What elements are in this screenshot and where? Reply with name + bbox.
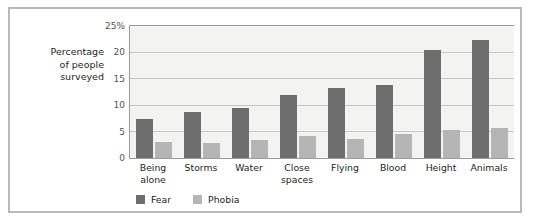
bar-group bbox=[472, 26, 508, 158]
bar-fear bbox=[328, 88, 345, 158]
y-tick-label: 20 bbox=[114, 47, 125, 57]
bar-group bbox=[136, 26, 172, 158]
bar-phobia bbox=[155, 142, 172, 158]
legend-item-phobia: Phobia bbox=[193, 194, 239, 205]
y-tick-label: 10 bbox=[114, 100, 125, 110]
y-tick-label: 25% bbox=[105, 21, 125, 31]
plot-area: 0510152025% bbox=[129, 25, 514, 159]
x-axis-label: Water bbox=[225, 162, 273, 174]
chart-figure: Percentage of people surveyed 0510152025… bbox=[8, 7, 522, 213]
x-axis-label: Flying bbox=[321, 162, 369, 174]
bar-group bbox=[280, 26, 316, 158]
y-axis-title-line-2: of people bbox=[24, 59, 104, 72]
bar-fear bbox=[424, 50, 441, 158]
x-axis-label: Closespaces bbox=[273, 162, 321, 185]
x-axis-label: Storms bbox=[177, 162, 225, 174]
legend-swatch-fear-icon bbox=[136, 195, 145, 204]
bar-phobia bbox=[251, 140, 268, 158]
y-axis-title-line-1: Percentage bbox=[24, 46, 104, 59]
bar-group bbox=[424, 26, 460, 158]
y-axis-title-line-3: surveyed bbox=[24, 71, 104, 84]
y-tick-label: 5 bbox=[119, 127, 125, 137]
bar-phobia bbox=[347, 139, 364, 158]
x-axis-label-line: Close bbox=[273, 162, 321, 174]
legend: Fear Phobia bbox=[136, 194, 261, 205]
x-axis-label: Beingalone bbox=[129, 162, 177, 185]
y-axis-title: Percentage of people surveyed bbox=[24, 46, 104, 84]
x-axis-label-line: Being bbox=[129, 162, 177, 174]
legend-item-fear: Fear bbox=[136, 194, 171, 205]
bar-phobia bbox=[203, 143, 220, 158]
bar-phobia bbox=[299, 136, 316, 158]
bar-phobia bbox=[395, 134, 412, 158]
x-axis-label: Animals bbox=[465, 162, 513, 174]
x-axis-label-line: Water bbox=[225, 162, 273, 174]
bar-fear bbox=[184, 112, 201, 158]
bar-group bbox=[184, 26, 220, 158]
bar-fear bbox=[280, 95, 297, 158]
y-tick-label: 0 bbox=[119, 153, 125, 163]
legend-label-fear: Fear bbox=[151, 194, 171, 205]
bar-phobia bbox=[491, 128, 508, 158]
bars-layer bbox=[130, 26, 514, 158]
x-axis-label-line: alone bbox=[129, 174, 177, 186]
bar-group bbox=[232, 26, 268, 158]
bar-fear bbox=[376, 85, 393, 158]
legend-swatch-phobia-icon bbox=[193, 195, 202, 204]
x-axis-label-line: Height bbox=[417, 162, 465, 174]
y-tick-label: 15 bbox=[114, 74, 125, 84]
x-axis-label: Height bbox=[417, 162, 465, 174]
bar-fear bbox=[232, 108, 249, 158]
bar-phobia bbox=[443, 130, 460, 158]
legend-label-phobia: Phobia bbox=[208, 194, 239, 205]
bar-group bbox=[328, 26, 364, 158]
bar-fear bbox=[472, 40, 489, 158]
x-axis-label-line: Blood bbox=[369, 162, 417, 174]
x-axis-label-line: Animals bbox=[465, 162, 513, 174]
x-axis-labels: BeingaloneStormsWaterClosespacesFlyingBl… bbox=[129, 162, 514, 190]
bar-fear bbox=[136, 119, 153, 158]
x-axis-label-line: Flying bbox=[321, 162, 369, 174]
x-axis-label: Blood bbox=[369, 162, 417, 174]
x-axis-label-line: spaces bbox=[273, 174, 321, 186]
x-axis-label-line: Storms bbox=[177, 162, 225, 174]
bar-group bbox=[376, 26, 412, 158]
